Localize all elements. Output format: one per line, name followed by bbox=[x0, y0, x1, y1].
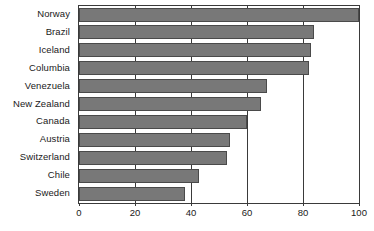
tick-label: 60 bbox=[242, 207, 253, 218]
tick-mark bbox=[79, 203, 80, 206]
tick-mark bbox=[135, 203, 136, 206]
tick-label: 0 bbox=[76, 207, 81, 218]
bar-chart: NorwayBrazilIcelandColumbiaVenezuelaNew … bbox=[0, 0, 374, 231]
bar bbox=[79, 8, 359, 22]
bars-layer bbox=[79, 6, 359, 203]
category-label: Canada bbox=[0, 112, 74, 130]
tick-mark bbox=[191, 203, 192, 206]
bar-row bbox=[79, 131, 359, 149]
bar bbox=[79, 187, 185, 201]
bar-row bbox=[79, 185, 359, 203]
bar bbox=[79, 25, 314, 39]
bar bbox=[79, 61, 309, 75]
tick-mark bbox=[359, 203, 360, 206]
bar bbox=[79, 169, 199, 183]
bar-row bbox=[79, 167, 359, 185]
category-label: Austria bbox=[0, 130, 74, 148]
tick-label: 100 bbox=[351, 207, 367, 218]
bar bbox=[79, 115, 247, 129]
value-axis: 020406080100 bbox=[78, 203, 359, 225]
category-label: Switzerland bbox=[0, 148, 74, 166]
bar-row bbox=[79, 96, 359, 114]
bar bbox=[79, 151, 227, 165]
category-label: Brazil bbox=[0, 23, 74, 41]
bar-row bbox=[79, 6, 359, 24]
tick-mark bbox=[247, 203, 248, 206]
bar-row bbox=[79, 42, 359, 60]
tick-label: 40 bbox=[186, 207, 197, 218]
bar-row bbox=[79, 78, 359, 96]
bar-row bbox=[79, 60, 359, 78]
bar bbox=[79, 97, 261, 111]
category-label: Columbia bbox=[0, 59, 74, 77]
plot-area bbox=[78, 5, 360, 204]
category-label: Chile bbox=[0, 166, 74, 184]
tick-label: 20 bbox=[130, 207, 141, 218]
category-label: Sweden bbox=[0, 184, 74, 202]
category-axis: NorwayBrazilIcelandColumbiaVenezuelaNew … bbox=[0, 5, 74, 202]
category-label: New Zealand bbox=[0, 95, 74, 113]
bar-row bbox=[79, 113, 359, 131]
bar bbox=[79, 43, 311, 57]
bar-row bbox=[79, 149, 359, 167]
bar bbox=[79, 79, 267, 93]
tick-mark bbox=[303, 203, 304, 206]
category-label: Norway bbox=[0, 5, 74, 23]
category-label: Venezuela bbox=[0, 77, 74, 95]
category-label: Iceland bbox=[0, 41, 74, 59]
tick-label: 80 bbox=[298, 207, 309, 218]
bar bbox=[79, 133, 230, 147]
bar-row bbox=[79, 24, 359, 42]
